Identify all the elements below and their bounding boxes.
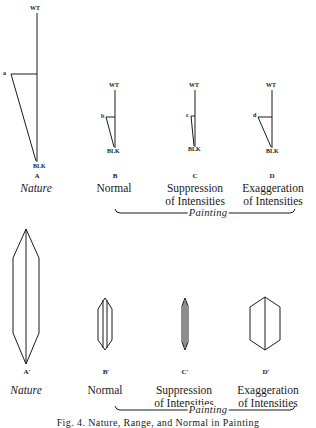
painting-brace-label-bottom: Painting	[188, 405, 229, 416]
label-line-1: Exaggeration	[237, 384, 298, 397]
point-label-c: c	[186, 112, 189, 118]
label-line-1: Suppression	[165, 182, 225, 195]
diagram-letter-d: D	[269, 173, 274, 180]
diagram-d-prime-shape	[250, 297, 280, 350]
diagram-c-prime-shape	[182, 298, 188, 350]
black-mark-d: BLK	[266, 148, 279, 154]
diagram-letter-c: C	[192, 173, 197, 180]
diagram-a-lines	[11, 13, 37, 162]
point-label-a: a	[3, 70, 6, 76]
label-line-2: of Intensities	[242, 195, 303, 208]
white-mark-a: WT	[30, 5, 40, 11]
diagram-label-exaggeration: Exaggeration of Intensities	[242, 182, 303, 208]
diagram-label-nature: Nature	[20, 182, 52, 195]
diagram-letter-c-prime: C′	[181, 369, 188, 376]
point-label-b: b	[101, 113, 104, 119]
black-mark-b: BLK	[107, 148, 120, 154]
diagram-b-lines	[106, 90, 115, 148]
diagram-label-normal-prime: Normal	[87, 384, 122, 397]
diagram-letter-a-prime: A′	[23, 369, 30, 376]
painting-brace-label-top: Painting	[188, 208, 229, 219]
diagram-label-nature-prime: Nature	[10, 384, 42, 397]
black-mark-c: BLK	[188, 146, 201, 152]
diagram-letter-d-prime: D′	[262, 369, 269, 376]
diagram-b-prime-shape	[98, 298, 112, 350]
black-mark-a: BLK	[33, 163, 46, 169]
diagram-d-lines	[258, 90, 272, 148]
diagram-label-exaggeration-prime: Exaggeration of Intensities	[237, 384, 298, 410]
diagram-letter-b: B	[113, 173, 118, 180]
diagram-letter-b-prime: B′	[103, 369, 110, 376]
diagram-a-prime-shape	[13, 229, 39, 364]
white-mark-d: WT	[266, 82, 276, 88]
diagram-c-lines	[191, 90, 195, 147]
label-line-2: of Intensities	[237, 397, 298, 410]
white-mark-c: WT	[189, 82, 199, 88]
label-line-1: Suppression	[154, 384, 214, 397]
white-mark-b: WT	[109, 82, 119, 88]
label-line-1: Exaggeration	[242, 182, 303, 195]
diagram-label-suppression: Suppression of Intensities	[165, 182, 225, 208]
point-label-d: d	[253, 112, 256, 118]
diagram-label-normal: Normal	[96, 182, 131, 195]
diagram-letter-a: A	[34, 173, 39, 180]
figure-caption: Fig. 4. Nature, Range, and Normal in Pai…	[57, 417, 260, 428]
